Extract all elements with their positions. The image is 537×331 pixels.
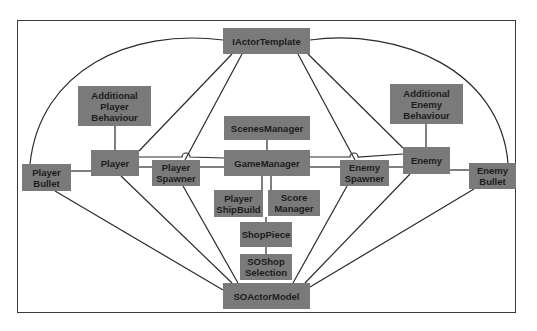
edge-iactor-player	[139, 54, 232, 151]
node-iactor-template[interactable]: IActorTemplate	[223, 28, 310, 54]
edge-iactor-player-spawner	[185, 54, 242, 160]
node-player-spawner[interactable]: Player Spawner	[152, 160, 200, 186]
node-soshop-selection[interactable]: SOShop Selection	[240, 254, 292, 280]
edge-player-game	[139, 153, 224, 158]
node-game-manager[interactable]: GameManager	[224, 150, 310, 176]
node-enemy[interactable]: Enemy	[403, 147, 450, 174]
node-scenes-manager[interactable]: ScenesManager	[224, 116, 310, 140]
node-enemy-bullet[interactable]: Enemy Bullet	[469, 163, 516, 189]
node-player-bullet[interactable]: Player Bullet	[22, 164, 71, 191]
edge-soactor-player-bullet	[55, 191, 223, 290]
node-player-shipbuild[interactable]: Player ShipBuild	[214, 190, 263, 217]
node-shop-piece[interactable]: ShopPiece	[240, 222, 292, 247]
edge-iactor-enemy-spawner	[298, 54, 355, 160]
edge-iactor-enemy	[308, 54, 403, 148]
node-soactor-model[interactable]: SOActorModel	[223, 283, 310, 309]
node-additional-player-behaviour[interactable]: Additional Player Behaviour	[78, 86, 151, 126]
node-additional-enemy-behaviour[interactable]: Additional Enemy Behaviour	[390, 84, 463, 124]
edge-game-enemy	[310, 153, 403, 157]
edge-soactor-enemy-bullet	[310, 189, 474, 287]
edge-soactor-enemy	[305, 174, 410, 283]
node-score-manager[interactable]: Score Manager	[268, 190, 320, 216]
node-enemy-spawner[interactable]: Enemy Spawner	[340, 160, 389, 186]
node-player[interactable]: Player	[91, 150, 139, 176]
